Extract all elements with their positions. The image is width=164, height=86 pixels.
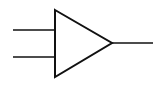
amplifier-triangle [55, 10, 112, 77]
amplifier-diagram [0, 0, 164, 86]
